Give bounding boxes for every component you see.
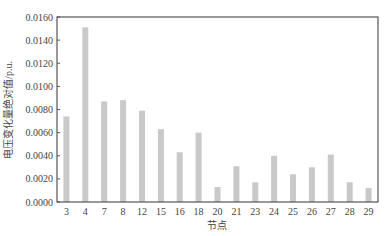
- bars-group: [63, 27, 371, 202]
- x-axis: 347812151618202123242526272829: [64, 206, 374, 217]
- x-tick-label: 12: [137, 206, 147, 217]
- x-tick-label: 26: [307, 206, 317, 217]
- x-tick-label: 4: [83, 206, 88, 217]
- bar-node-3: [63, 116, 69, 202]
- y-tick-label: 0.0040: [26, 150, 54, 161]
- y-axis: 0.00000.00200.00400.00600.00800.01000.01…: [26, 12, 61, 208]
- bar-node-7: [101, 101, 107, 202]
- x-tick-label: 24: [269, 206, 279, 217]
- x-axis-title: 节点: [207, 220, 227, 231]
- y-tick-label: 0.0060: [26, 127, 54, 138]
- x-tick-label: 20: [213, 206, 223, 217]
- bar-node-24: [271, 156, 277, 202]
- x-tick-label: 15: [156, 206, 166, 217]
- bar-node-29: [366, 188, 372, 202]
- bar-node-8: [120, 100, 126, 202]
- bar-node-16: [177, 152, 183, 202]
- bar-node-26: [309, 167, 315, 202]
- bar-node-27: [328, 155, 334, 202]
- x-tick-label: 16: [175, 206, 185, 217]
- x-tick-label: 23: [250, 206, 260, 217]
- bar-node-18: [196, 133, 202, 202]
- bar-node-28: [347, 182, 353, 202]
- x-tick-label: 25: [288, 206, 298, 217]
- bar-node-25: [290, 174, 296, 202]
- x-tick-label: 27: [326, 206, 336, 217]
- y-tick-label: 0.0160: [26, 12, 54, 23]
- y-tick-label: 0.0080: [26, 104, 54, 115]
- x-tick-label: 21: [231, 206, 241, 217]
- x-tick-label: 29: [364, 206, 374, 217]
- x-tick-label: 8: [121, 206, 126, 217]
- x-tick-label: 18: [194, 206, 204, 217]
- x-tick-label: 7: [102, 206, 107, 217]
- bar-node-15: [158, 129, 164, 202]
- x-tick-label: 28: [345, 206, 355, 217]
- y-tick-label: 0.0020: [26, 173, 54, 184]
- bar-chart: 0.00000.00200.00400.00600.00800.01000.01…: [0, 0, 391, 236]
- bar-node-21: [233, 166, 239, 202]
- y-tick-label: 0.0100: [26, 81, 54, 92]
- y-tick-label: 0.0000: [26, 197, 54, 208]
- y-tick-label: 0.0140: [26, 35, 54, 46]
- x-tick-label: 3: [64, 206, 69, 217]
- bar-node-23: [252, 182, 258, 202]
- y-axis-title: 电压变化量绝对值/p.u.: [2, 61, 14, 159]
- bar-node-4: [82, 27, 88, 202]
- bar-node-20: [215, 187, 221, 202]
- bar-node-12: [139, 111, 145, 202]
- y-tick-label: 0.0120: [26, 58, 54, 69]
